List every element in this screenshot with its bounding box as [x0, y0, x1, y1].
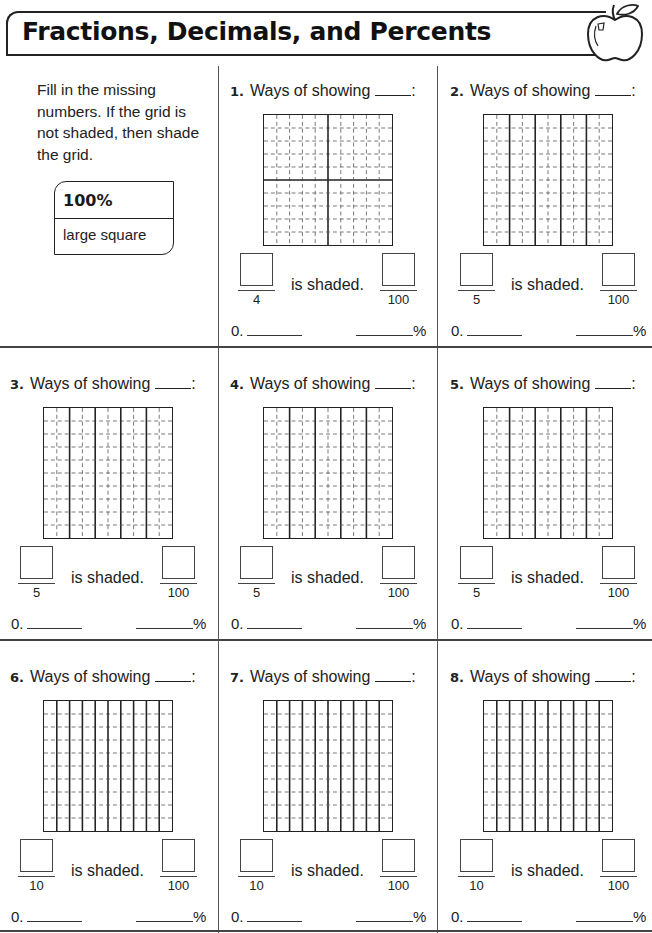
hundredths-numerator-box[interactable] [602, 839, 635, 872]
problem-5: 5.Ways of showing: 5 is shaded. 100 0. % [440, 363, 652, 633]
ways-label: Ways of showing [470, 668, 590, 685]
hundred-grid[interactable] [263, 700, 393, 832]
answer-blank[interactable] [375, 95, 411, 96]
percent-blank[interactable] [136, 921, 193, 922]
decimal-prefix: 0. [451, 615, 464, 632]
percent-blank[interactable] [576, 921, 633, 922]
fraction-bar [238, 583, 275, 584]
denominator-100: 100 [600, 292, 637, 307]
fraction-bar [600, 583, 637, 584]
decimal-blank[interactable] [467, 335, 522, 336]
decimal-blank[interactable] [467, 628, 522, 629]
numerator-box[interactable] [460, 253, 493, 286]
decimal-blank[interactable] [27, 628, 82, 629]
denominator-100: 100 [380, 585, 417, 600]
decimal-prefix: 0. [451, 322, 464, 339]
page-title: Fractions, Decimals, and Percents [22, 17, 491, 46]
answer-blank[interactable] [595, 681, 631, 682]
colon: : [631, 668, 635, 685]
numerator-box[interactable] [460, 839, 493, 872]
question-title: 7.Ways of showing: [230, 668, 416, 686]
question-number: 7. [230, 670, 244, 685]
numerator-box[interactable] [20, 546, 53, 579]
answer-blank[interactable] [595, 95, 631, 96]
key-label: large square [55, 219, 173, 243]
numerator-box[interactable] [240, 839, 273, 872]
question-title: 4.Ways of showing: [230, 375, 416, 393]
hundredths-numerator-box[interactable] [382, 253, 415, 286]
decimal-blank[interactable] [247, 921, 302, 922]
question-number: 2. [450, 84, 464, 99]
answer-blank[interactable] [155, 388, 191, 389]
problem-6: 6.Ways of showing: 10 is shaded. 100 0. … [0, 656, 218, 926]
answer-blank[interactable] [375, 681, 411, 682]
hundredths-numerator-box[interactable] [382, 839, 415, 872]
answer-blank[interactable] [375, 388, 411, 389]
denominator: 5 [458, 292, 495, 307]
percent-suffix: % [413, 908, 426, 925]
hundred-grid[interactable] [483, 700, 613, 832]
problem-8: 8.Ways of showing: 10 is shaded. 100 0. … [440, 656, 652, 926]
colon: : [411, 668, 415, 685]
decimal-blank[interactable] [27, 921, 82, 922]
percent-blank[interactable] [576, 335, 633, 336]
ways-label: Ways of showing [470, 375, 590, 392]
is-shaded-label: is shaded. [511, 276, 584, 294]
is-shaded-label: is shaded. [511, 862, 584, 880]
colon: : [631, 82, 635, 99]
percent-blank[interactable] [136, 628, 193, 629]
fraction-bar [380, 876, 417, 877]
percent-suffix: % [413, 615, 426, 632]
question-title: 5.Ways of showing: [450, 375, 636, 393]
answer-blank[interactable] [595, 388, 631, 389]
question-title: 6.Ways of showing: [10, 668, 196, 686]
fraction-bar [238, 876, 275, 877]
percent-blank[interactable] [356, 628, 413, 629]
decimal-blank[interactable] [247, 335, 302, 336]
title-bar: Fractions, Decimals, and Percents [6, 11, 606, 56]
denominator-100: 100 [600, 585, 637, 600]
numerator-box[interactable] [460, 546, 493, 579]
is-shaded-label: is shaded. [71, 569, 144, 587]
percent-blank[interactable] [356, 921, 413, 922]
column-divider-1 [218, 66, 219, 933]
is-shaded-label: is shaded. [71, 862, 144, 880]
percent-suffix: % [633, 322, 646, 339]
ways-label: Ways of showing [250, 668, 370, 685]
denominator-100: 100 [380, 878, 417, 893]
decimal-blank[interactable] [467, 921, 522, 922]
key-box: 100% large square [54, 181, 174, 255]
decimal-blank[interactable] [247, 628, 302, 629]
problem-1: 1.Ways of showing: 4 is shaded. 100 0. % [220, 70, 438, 340]
fraction-bar [458, 876, 495, 877]
hundredths-numerator-box[interactable] [382, 546, 415, 579]
hundred-grid[interactable] [483, 407, 613, 539]
numerator-box[interactable] [20, 839, 53, 872]
hundred-grid[interactable] [43, 407, 173, 539]
question-number: 3. [10, 377, 24, 392]
hundred-grid[interactable] [263, 114, 393, 246]
denominator-100: 100 [600, 878, 637, 893]
colon: : [191, 668, 195, 685]
is-shaded-label: is shaded. [291, 862, 364, 880]
hundredths-numerator-box[interactable] [162, 839, 195, 872]
fraction-bar [160, 876, 197, 877]
question-title: 8.Ways of showing: [450, 668, 636, 686]
problem-7: 7.Ways of showing: 10 is shaded. 100 0. … [220, 656, 438, 926]
hundred-grid[interactable] [483, 114, 613, 246]
is-shaded-label: is shaded. [511, 569, 584, 587]
numerator-box[interactable] [240, 546, 273, 579]
ways-label: Ways of showing [250, 375, 370, 392]
numerator-box[interactable] [240, 253, 273, 286]
answer-blank[interactable] [155, 681, 191, 682]
percent-blank[interactable] [356, 335, 413, 336]
fraction-bar [458, 290, 495, 291]
hundred-grid[interactable] [43, 700, 173, 832]
ways-label: Ways of showing [30, 375, 150, 392]
hundredths-numerator-box[interactable] [162, 546, 195, 579]
problem-2: 2.Ways of showing: 5 is shaded. 100 0. % [440, 70, 652, 340]
percent-blank[interactable] [576, 628, 633, 629]
hundred-grid[interactable] [263, 407, 393, 539]
hundredths-numerator-box[interactable] [602, 253, 635, 286]
hundredths-numerator-box[interactable] [602, 546, 635, 579]
